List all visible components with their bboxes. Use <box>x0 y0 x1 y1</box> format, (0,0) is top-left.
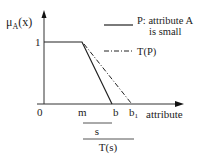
membership-diagram: μA(x) 1 0 m b b1 attribute s T(s) P: att… <box>0 0 201 154</box>
x-tick-b1: b1 <box>129 106 139 120</box>
x-axis-label: attribute <box>146 108 183 120</box>
legend: P: attribute A is small T(P) <box>104 15 193 58</box>
x-axis-arrow-icon <box>175 101 184 107</box>
ts-label: T(s) <box>99 141 118 154</box>
origin-label: 0 <box>37 106 43 118</box>
curve-p-solid <box>44 42 112 104</box>
x-tick-b: b <box>113 106 119 118</box>
y-axis-arrow-icon <box>42 10 47 18</box>
legend-tp-label: T(P) <box>137 46 157 58</box>
s-label: s <box>95 125 99 137</box>
y-tick-1: 1 <box>35 36 41 48</box>
legend-p-label-line2: is small <box>149 26 181 37</box>
x-tick-m: m <box>78 106 87 118</box>
y-axis-label: μA(x) <box>6 15 32 31</box>
legend-p-label: P: attribute A <box>137 15 193 26</box>
